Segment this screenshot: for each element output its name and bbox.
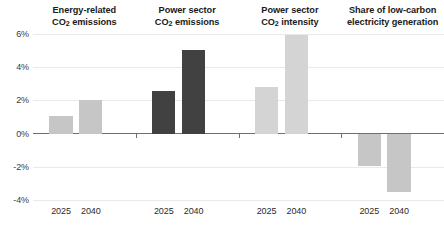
x-axis-panel-2: 20252040 xyxy=(136,200,239,226)
x-axis-tick-label: 2025 xyxy=(51,206,71,216)
x-axis-tick-label: 2040 xyxy=(389,206,409,216)
plot-area: 6%4%2%0%-2%-4% xyxy=(0,34,444,200)
x-axis-tick-label: 2025 xyxy=(359,206,379,216)
y-axis-tick-label: 6% xyxy=(16,29,29,39)
y-axis-tick-label: 0% xyxy=(16,129,29,139)
bar-2025[interactable] xyxy=(255,87,278,133)
panel-title-energy-related-co2-emissions: Energy-related CO2 emissions xyxy=(33,0,136,34)
bar-group xyxy=(341,34,444,200)
y-axis-tick-label: -2% xyxy=(13,162,29,172)
bar-group xyxy=(136,34,239,200)
panel-title-co2-suffix: emissions xyxy=(172,17,219,27)
subscript-2: 2 xyxy=(66,19,70,28)
bar-2040[interactable] xyxy=(182,50,205,134)
x-axis: 20252040 20252040 20252040 20252040 xyxy=(0,200,444,226)
panel-title-power-sector-co2-intensity: Power sector CO2 intensity xyxy=(239,0,342,34)
panel-title-line-1: Power sector xyxy=(239,5,342,17)
panel-group xyxy=(33,34,444,200)
x-axis-left-spacer xyxy=(0,200,33,226)
bar-2040[interactable] xyxy=(387,134,410,192)
panel-title-power-sector-co2-emissions: Power sector CO2 emissions xyxy=(136,0,239,34)
y-axis-tick-label: 4% xyxy=(16,62,29,72)
bar-2025[interactable] xyxy=(152,91,175,133)
bar-2040[interactable] xyxy=(285,35,308,134)
panel-title-line-2: CO2 emissions xyxy=(33,17,136,29)
panel-title-co2-prefix: CO xyxy=(52,17,66,27)
bar-2040[interactable] xyxy=(79,100,102,134)
x-axis-panel-4: 20252040 xyxy=(341,200,444,226)
panel-title-co2-prefix: CO xyxy=(155,17,169,27)
panel-title-co2-suffix: emissions xyxy=(70,17,117,27)
chart-panel-3 xyxy=(239,34,342,200)
panel-title-line-2: CO2 intensity xyxy=(239,17,342,29)
x-axis-tick-label: 2025 xyxy=(257,206,277,216)
bar-group xyxy=(239,34,342,200)
bar-2025[interactable] xyxy=(49,116,72,133)
y-axis: 6%4%2%0%-2%-4% xyxy=(0,34,33,200)
panel-title-line-2: electricity generation xyxy=(341,17,444,29)
x-axis-tick-label: 2040 xyxy=(286,206,306,216)
panel-title-co2-suffix: intensity xyxy=(279,17,319,27)
y-axis-tick-label: 2% xyxy=(16,95,29,105)
x-axis-tick-label: 2040 xyxy=(184,206,204,216)
panel-title-line-1: Power sector xyxy=(136,5,239,17)
panel-title-line-1: Share of low-carbon xyxy=(341,5,444,17)
chart-panel-2 xyxy=(136,34,239,200)
plot-canvas xyxy=(33,34,444,200)
chart-panel-4 xyxy=(341,34,444,200)
panel-title-co2-prefix: CO xyxy=(261,17,275,27)
panel-title-line-1: Energy-related xyxy=(33,5,136,17)
panel-title-line-2: CO2 emissions xyxy=(136,17,239,29)
subscript-2: 2 xyxy=(275,19,279,28)
bar-group xyxy=(33,34,136,200)
x-axis-tick-label: 2025 xyxy=(154,206,174,216)
x-axis-panel-1: 20252040 xyxy=(33,200,136,226)
bar-2025[interactable] xyxy=(358,134,381,166)
grouped-bar-chart: Energy-related CO2 emissions Power secto… xyxy=(0,0,444,226)
x-axis-panel-3: 20252040 xyxy=(239,200,342,226)
panel-title-share-of-low-carbon-electricity-generation: Share of low-carbon electricity generati… xyxy=(341,0,444,34)
panel-titles-row: Energy-related CO2 emissions Power secto… xyxy=(0,0,444,34)
chart-panel-1 xyxy=(33,34,136,200)
x-axis-tick-label: 2040 xyxy=(81,206,101,216)
subscript-2: 2 xyxy=(168,19,172,28)
